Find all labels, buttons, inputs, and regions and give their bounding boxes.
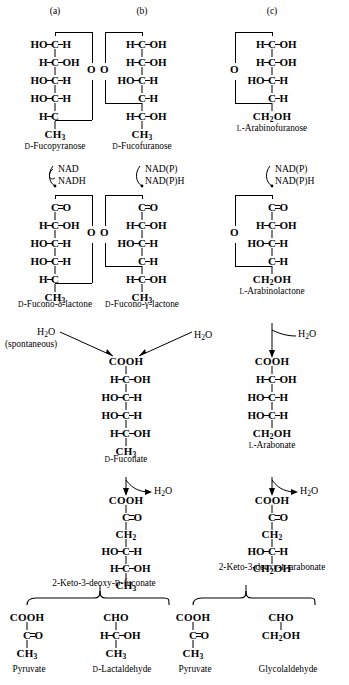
carbonyl-oxygen: O: [35, 626, 44, 644]
bond-left: [108, 635, 112, 636]
label-pyruvate-right: Pyruvate: [178, 664, 211, 674]
bond-right-double-lower: [196, 636, 200, 637]
cleavage-brackets: [0, 0, 349, 685]
substituent-left: H: [100, 626, 109, 644]
bond-right-double-upper: [30, 633, 34, 634]
label-d-lactaldehyde: D-Lactaldehyde: [93, 664, 152, 674]
bond-right-double-lower: [30, 636, 34, 637]
carbon-center: CH3: [106, 644, 127, 664]
pathway-figure: (a) (b) (c) CHOHCHOHCHOHCHOHCHCH3 O D-Fu…: [0, 0, 349, 685]
bond-right: [119, 635, 123, 636]
substituent-right: OH: [124, 626, 141, 644]
bond-right-double-upper: [196, 633, 200, 634]
carbonyl-oxygen: O: [201, 626, 210, 644]
label-pyruvate-left: Pyruvate: [12, 664, 45, 674]
carbon-center: CH3: [17, 644, 38, 664]
label-glycolaldehyde: Glycolaldehyde: [259, 664, 318, 674]
carbon-center: CH2OH: [262, 626, 300, 646]
carbon-center: CH3: [183, 644, 204, 664]
